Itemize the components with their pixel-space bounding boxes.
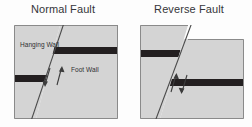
panel-title-reverse-fault: Reverse Fault [126, 3, 252, 16]
fault-diagram-figure: Normal Fault [0, 0, 252, 127]
panel-reverse-fault: Reverse Fault [126, 0, 252, 127]
normal-foot-wall-label: Foot Wall [71, 66, 99, 74]
panel-normal-fault: Normal Fault [0, 0, 126, 127]
normal-hanging-wall-label: Hanging Wall [20, 41, 59, 49]
reverse-fault-diagram [140, 25, 244, 119]
panel-title-normal-fault: Normal Fault [0, 3, 126, 16]
normal-fault-diagram [14, 25, 118, 119]
